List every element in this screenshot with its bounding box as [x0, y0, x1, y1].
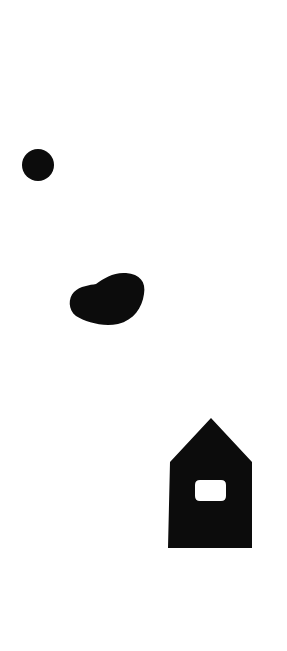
house-shape: [168, 418, 252, 548]
shapes-drawing: [0, 0, 287, 651]
canvas: [0, 0, 287, 651]
blob-shape: [70, 273, 145, 325]
circle-shape: [22, 149, 54, 181]
